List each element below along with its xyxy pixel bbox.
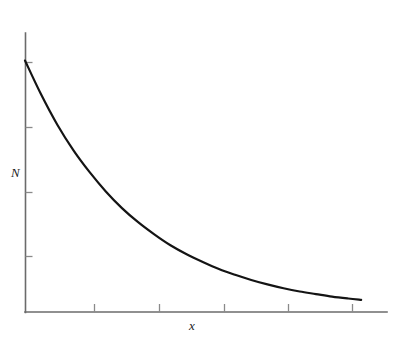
y-axis-label: N	[11, 166, 20, 179]
exponential-decay-curve	[25, 61, 361, 300]
plot-canvas	[0, 0, 399, 341]
axes-group	[25, 33, 387, 313]
x-axis-label: x	[189, 319, 195, 332]
y-axis-ticks-group	[26, 63, 33, 257]
x-axis-ticks-group	[95, 304, 353, 312]
figure-container: N x	[0, 0, 399, 341]
